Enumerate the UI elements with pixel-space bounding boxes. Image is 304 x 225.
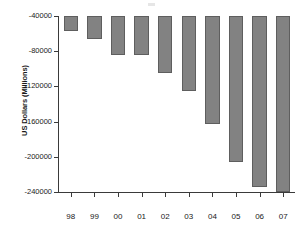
y-tick-label: -40000 — [0, 11, 52, 20]
x-tick-mark — [165, 193, 166, 197]
bar — [158, 16, 173, 73]
x-tick-mark — [189, 193, 190, 197]
x-tick-mark — [118, 193, 119, 197]
x-tick-mark — [142, 193, 143, 197]
y-tick-label: -240000 — [0, 187, 52, 196]
x-tick-label: 06 — [248, 212, 272, 221]
y-tick-mark — [54, 122, 58, 123]
x-tick-mark — [212, 193, 213, 197]
x-tick-label: 07 — [271, 212, 295, 221]
y-tick-mark — [54, 86, 58, 87]
bar — [205, 16, 220, 124]
bar — [64, 16, 79, 31]
y-tick-label: -200000 — [0, 152, 52, 161]
y-tick-mark — [54, 16, 58, 17]
y-tick-label: -160000 — [0, 117, 52, 126]
y-axis-line — [58, 16, 59, 193]
x-tick-mark — [283, 193, 284, 197]
y-tick-mark — [54, 51, 58, 52]
x-tick-label: 99 — [82, 212, 106, 221]
x-tick-label: 04 — [200, 212, 224, 221]
bar — [87, 16, 102, 39]
bar — [276, 16, 291, 192]
y-tick-mark — [54, 192, 58, 193]
x-tick-mark — [260, 193, 261, 197]
x-tick-mark — [94, 193, 95, 197]
bar — [134, 16, 149, 55]
x-tick-mark — [236, 193, 237, 197]
x-tick-label: 98 — [59, 212, 83, 221]
x-tick-mark — [71, 193, 72, 197]
x-tick-label: 03 — [177, 212, 201, 221]
x-tick-label: 05 — [224, 212, 248, 221]
scan-artifact — [148, 3, 155, 6]
y-tick-label: -80000 — [0, 46, 52, 55]
y-tick-label: -120000 — [0, 81, 52, 90]
x-tick-label: 01 — [130, 212, 154, 221]
bar — [111, 16, 126, 55]
x-tick-label: 00 — [106, 212, 130, 221]
plot-area: -40000-80000-120000-160000-200000-240000… — [58, 16, 294, 192]
bar — [229, 16, 244, 162]
bar — [182, 16, 197, 91]
x-tick-label: 02 — [153, 212, 177, 221]
y-tick-mark — [54, 157, 58, 158]
bar-chart: US Dollars (Millions) -40000-80000-12000… — [0, 0, 304, 225]
bar — [252, 16, 267, 187]
